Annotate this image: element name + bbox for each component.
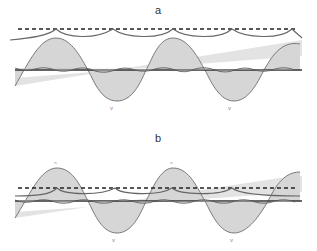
panel-b-tick-4: v	[230, 237, 233, 243]
panel-a-tick-2: v	[228, 105, 231, 111]
panel-b: ^ ^ v v	[15, 161, 302, 243]
panel-b-tick-2: ^	[170, 161, 173, 167]
panel-a-tick-1: v	[110, 105, 113, 111]
panel-b-sine-fill-lower	[88, 201, 268, 233]
panel-b-tick-3: v	[112, 237, 115, 243]
panel-b-tick-1: ^	[54, 161, 57, 167]
panel-a-sine-fill-lower	[88, 70, 264, 101]
figure: a b v v	[0, 0, 317, 251]
diagram-svg: v v ^ ^ v v	[0, 0, 317, 251]
panel-a: v v	[10, 29, 302, 111]
